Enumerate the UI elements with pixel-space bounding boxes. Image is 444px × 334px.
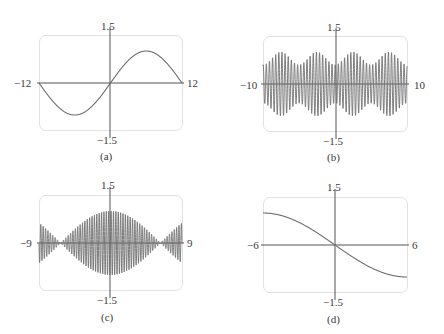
y-max-label: 1.5 (327, 181, 341, 193)
graph-d (0, 0, 444, 334)
y-min-label: −1.5 (323, 296, 343, 308)
panel-d: 1.5 −1.5 −6 6 (d) (0, 0, 444, 334)
x-max-label: 6 (412, 239, 418, 251)
x-min-label: −6 (247, 239, 259, 251)
panel-caption: (d) (327, 313, 340, 325)
